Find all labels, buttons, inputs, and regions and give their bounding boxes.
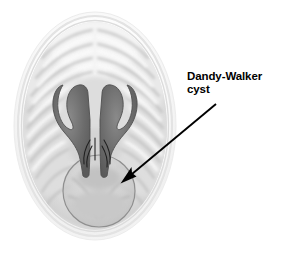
cyst-label-line-2: cyst — [187, 83, 210, 96]
figure-root: Dandy-Walker cyst — [0, 0, 284, 253]
dandy-walker-cyst — [63, 155, 135, 227]
cyst-label-line-1: Dandy-Walker — [187, 70, 262, 83]
brain-cross-section-illustration — [0, 0, 284, 253]
